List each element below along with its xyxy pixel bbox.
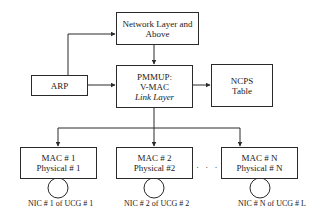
arp-label: ARP xyxy=(51,81,69,91)
mac2-line1: MAC # 2 xyxy=(137,153,171,163)
macn-line1: MAC # N xyxy=(241,153,277,163)
mac2-box: MAC # 2 Physical #2 xyxy=(116,147,193,179)
pmmup-line1: PMMUP: xyxy=(137,72,172,82)
nic-2-icon xyxy=(144,178,164,198)
mac1-line1: MAC # 1 xyxy=(41,153,75,163)
mac1-box: MAC # 1 Physical # 1 xyxy=(20,147,97,179)
edge-arp-to-network xyxy=(68,34,115,75)
nic-1-icon xyxy=(48,178,68,198)
ncps-line2: Table xyxy=(232,86,252,96)
pmmup-box: PMMUP: V-MAC Link Layer xyxy=(116,65,193,108)
ncps-line1: NCPS xyxy=(231,76,254,86)
arp-box: ARP xyxy=(31,75,88,96)
mac1-line2: Physical # 1 xyxy=(37,163,81,173)
nic-2-label: NIC # 2 of UCG # 2 xyxy=(124,199,189,208)
ncps-table-box: NCPS Table xyxy=(211,64,273,107)
network-layer-box: Network Layer and Above xyxy=(116,12,199,45)
network-layer-line2: Above xyxy=(146,29,170,39)
macn-line2: Physical # N xyxy=(237,163,283,173)
nic-n-label: NIC # N of UCG # L xyxy=(238,199,306,208)
pmmup-subtitle: Link Layer xyxy=(135,92,174,102)
pmmup-line2: V-MAC xyxy=(140,82,169,92)
nic-1-label: NIC # 1 of UCG # 1 xyxy=(28,199,93,208)
network-layer-line1: Network Layer and xyxy=(123,19,193,29)
nic-n-icon xyxy=(250,178,270,198)
macn-box: MAC # N Physical # N xyxy=(221,147,298,179)
ellipsis: · · · xyxy=(196,162,220,172)
mac2-line2: Physical #2 xyxy=(134,163,176,173)
